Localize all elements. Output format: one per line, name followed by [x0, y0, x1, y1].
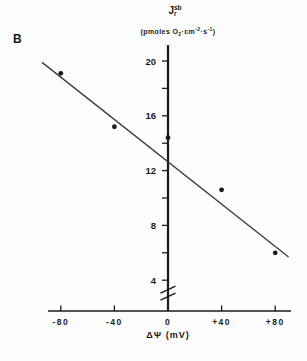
data-point-4: [219, 187, 224, 192]
y-tick-label-20: 20: [145, 56, 156, 67]
x-axis-units: (mV): [166, 330, 190, 340]
y-tick-label-16: 16: [145, 110, 156, 121]
chart-plot-area: 48121620-80-400+40+80: [0, 0, 307, 361]
y-tick-label-8: 8: [151, 220, 156, 231]
y-tick-label-4: 4: [151, 275, 157, 286]
x-tick-label--80: -80: [52, 317, 69, 327]
data-point-1: [58, 71, 63, 76]
data-point-3: [166, 135, 171, 140]
data-point-5: [273, 250, 278, 255]
y-tick-label-12: 12: [145, 165, 156, 176]
data-point-2: [112, 124, 117, 129]
delta-psi-symbol: ΔΨ: [146, 330, 162, 340]
x-tick-label-40: +40: [212, 317, 231, 327]
x-axis-title: ΔΨ (mV): [123, 330, 213, 340]
x-tick-label-0: 0: [165, 317, 171, 327]
regression-line: [42, 62, 289, 257]
x-tick-label-80: +80: [266, 317, 285, 327]
figure-panel: B Jsbr (pmoles O2·cm-2·s-1) 48121620-80-…: [0, 0, 307, 361]
x-tick-label--40: -40: [106, 317, 123, 327]
